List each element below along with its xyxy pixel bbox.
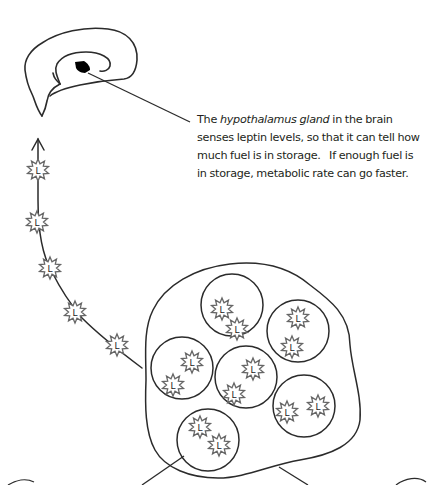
leptin-label: L xyxy=(284,408,289,418)
caption-prefix: The xyxy=(197,113,220,126)
fat-cell: LL xyxy=(151,337,213,399)
leptin-label: L xyxy=(189,358,194,368)
fat-cell: LL xyxy=(215,346,277,408)
leptin-label: L xyxy=(216,441,221,451)
fat-cell: LL xyxy=(201,274,263,340)
leptin-star-icon: L xyxy=(190,416,211,438)
leptin-label: L xyxy=(231,390,236,400)
pathway-leptin-stars: LLLLL xyxy=(27,159,128,356)
leptin-label: L xyxy=(219,305,224,315)
leptin-label: L xyxy=(197,423,202,433)
leptin-label: L xyxy=(315,402,320,412)
leptin-label: L xyxy=(114,341,119,351)
leptin-star-icon: L xyxy=(227,318,248,340)
caption-line-4: in storage, metabolic rate can go faster… xyxy=(197,165,429,183)
leptin-star-icon: L xyxy=(28,159,49,181)
connector-lines xyxy=(8,456,426,485)
leptin-label: L xyxy=(234,325,239,335)
leptin-star-icon: L xyxy=(182,351,203,373)
hypothalamus-blob xyxy=(75,61,90,73)
caption-italic-term: hypothalamus gland xyxy=(220,113,330,126)
leptin-star-icon: L xyxy=(243,358,264,380)
fat-cell: LL xyxy=(273,375,335,437)
leptin-star-icon: L xyxy=(40,257,61,279)
leptin-star-icon: L xyxy=(282,336,303,358)
caption-line-2: senses leptin levels, so that it can tel… xyxy=(197,129,429,147)
leptin-star-icon: L xyxy=(65,301,86,323)
leptin-star-icon: L xyxy=(288,307,309,329)
leptin-label: L xyxy=(34,218,39,228)
fat-cell: LL xyxy=(177,409,239,471)
leptin-star-icon: L xyxy=(308,395,329,417)
leptin-label: L xyxy=(170,381,175,391)
leptin-star-icon: L xyxy=(163,374,184,396)
leptin-star-icon: L xyxy=(27,211,48,233)
fat-cells: LLLLLLLLLLLL xyxy=(151,274,335,471)
fat-cell: LL xyxy=(267,300,329,362)
caption-line-3: much fuel is in storage. If enough fuel … xyxy=(197,147,429,165)
leptin-label: L xyxy=(72,308,77,318)
leptin-star-icon: L xyxy=(209,434,230,456)
leptin-star-icon: L xyxy=(277,401,298,423)
leptin-label: L xyxy=(35,166,40,176)
leptin-star-icon: L xyxy=(212,298,233,320)
caption-suffix: in the brain xyxy=(329,113,392,126)
leptin-label: L xyxy=(289,343,294,353)
pointer-line-hypothalamus xyxy=(88,73,190,122)
leptin-label: L xyxy=(47,264,52,274)
caption-text: The hypothalamus gland in the brain sens… xyxy=(197,111,429,183)
leptin-diagram: LLLLLLLLLLLL LLLLL xyxy=(0,0,430,485)
leptin-star-icon: L xyxy=(107,334,128,356)
leptin-label: L xyxy=(250,365,255,375)
leptin-label: L xyxy=(295,314,300,324)
caption-line-1: The hypothalamus gland in the brain xyxy=(197,111,429,129)
